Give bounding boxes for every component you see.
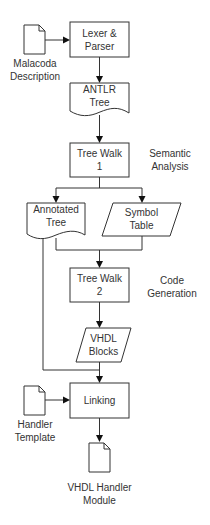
vhdl-handler-module-label-2: Module: [83, 495, 116, 506]
vhdl-blocks-label-2: Blocks: [89, 346, 118, 357]
tree-walk-2-label-2: 2: [97, 286, 103, 297]
document-icon: [24, 25, 45, 54]
malacoda-description-label-2: Description: [10, 71, 60, 82]
code-generation-label-1: Code: [160, 275, 184, 286]
antlr-tree-label-1: ANTLR: [83, 84, 116, 95]
edge-malacoda-to-lexer: [45, 37, 70, 44]
edge-merge-to-treewalk2: [56, 236, 142, 268]
malacoda-description-node: Malacoda Description: [10, 25, 60, 82]
edge-linking-to-module: [96, 418, 103, 442]
annotated-tree-label-1: Annotated: [33, 204, 79, 215]
symbol-table-label-1: Symbol: [125, 207, 158, 218]
semantic-analysis-label-2: Analysis: [151, 161, 188, 172]
vhdl-handler-module-label-1: VHDL Handler: [67, 482, 132, 493]
lexer-parser-label-2: Parser: [85, 41, 115, 52]
vhdl-handler-module-node: VHDL Handler Module: [67, 443, 132, 506]
document-icon: [89, 443, 110, 472]
code-generation-label-2: Generation: [147, 288, 196, 299]
linking-node: Linking: [70, 383, 129, 418]
semantic-analysis-annotation: Semantic Analysis: [149, 148, 191, 172]
handler-template-label-2: Template: [15, 432, 56, 443]
handler-template-label-1: Handler: [17, 419, 53, 430]
tree-walk-1-label-1: Tree Walk: [77, 148, 123, 159]
symbol-table-node: Symbol Table: [102, 203, 181, 236]
antlr-tree-label-2: Tree: [89, 97, 110, 108]
handler-template-node: Handler Template: [15, 386, 56, 443]
edge-treewalk2-to-vhdlblocks: [96, 302, 103, 328]
edge-antlr-to-treewalk1: [96, 115, 103, 143]
vhdl-blocks-label-1: VHDL: [90, 333, 117, 344]
annotated-tree-label-2: Tree: [46, 217, 67, 228]
annotated-tree-node: Annotated Tree: [27, 203, 85, 239]
linking-label: Linking: [84, 395, 116, 406]
tree-walk-2-label-1: Tree Walk: [77, 273, 123, 284]
lexer-parser-node: Lexer & Parser: [70, 22, 129, 57]
vhdl-blocks-node: VHDL Blocks: [76, 328, 131, 362]
antlr-tree-node: ANTLR Tree: [70, 83, 129, 116]
compiler-flow-diagram: Malacoda Description Lexer & Parser ANTL…: [0, 0, 210, 525]
edge-treewalk1-branch: [53, 177, 146, 203]
semantic-analysis-label-1: Semantic: [149, 148, 191, 159]
document-icon: [24, 386, 45, 415]
tree-walk-2-node: Tree Walk 2: [70, 268, 129, 302]
code-generation-annotation: Code Generation: [147, 275, 196, 299]
symbol-table-label-2: Table: [130, 220, 154, 231]
malacoda-description-label-1: Malacoda: [13, 58, 57, 69]
edge-lexer-to-antlr: [96, 57, 103, 83]
lexer-parser-label-1: Lexer &: [82, 28, 117, 39]
tree-walk-1-label-2: 1: [97, 161, 103, 172]
tree-walk-1-node: Tree Walk 1: [70, 143, 129, 177]
edge-template-to-linking: [45, 397, 70, 404]
